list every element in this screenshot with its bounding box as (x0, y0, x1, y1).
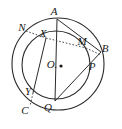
geometry-figure: O. A N X M B P Y C Q (0, 0, 122, 129)
point-label-N: N (18, 22, 25, 33)
point-label-C: C (21, 105, 28, 116)
segment-X-Y (33, 38, 46, 93)
point-label-X: X (40, 28, 47, 39)
point-label-P: P (89, 61, 96, 72)
point-label-Y: Y (25, 86, 31, 97)
geometry-canvas (0, 0, 122, 129)
center-dot (59, 64, 62, 67)
point-label-O: O. (47, 59, 58, 70)
point-label-A: A (51, 6, 58, 17)
point-label-Q: Q (44, 102, 52, 113)
point-label-B: B (102, 43, 109, 54)
point-label-M: M (77, 36, 86, 47)
